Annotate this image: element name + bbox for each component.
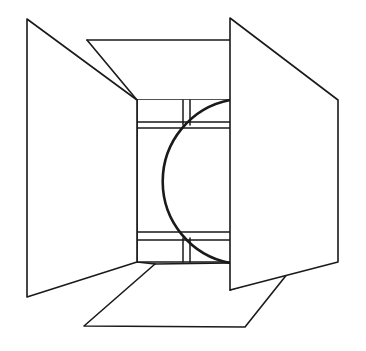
figure-canvas <box>0 0 366 351</box>
open-box-sphere-diagram <box>0 0 366 351</box>
box-interior <box>137 100 230 263</box>
bottom-panel-hinge <box>155 263 230 264</box>
